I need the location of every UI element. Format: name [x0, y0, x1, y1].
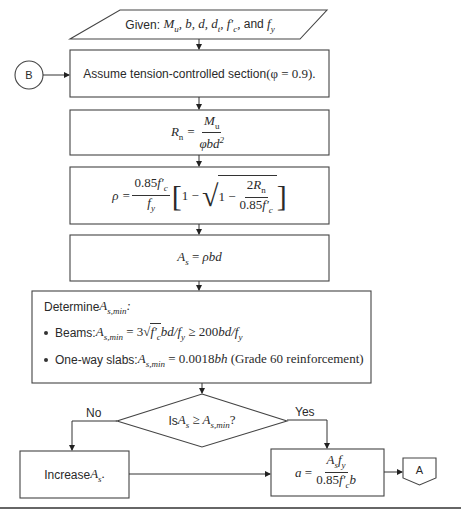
bullet-dot — [44, 331, 48, 335]
determine-bullet-beams: Beams: As,min = 3√f′cbd/fy ≥ 200bd/fy — [42, 322, 242, 344]
determine-title: Determine As,min: — [44, 296, 131, 318]
a-lhs: a = — [295, 465, 312, 481]
a-formula: a = Asfy0.85f′cb — [271, 449, 384, 496]
given-label: Given: Mu, b, d, dt, f′c, and fy — [95, 12, 305, 38]
rho-fraction: 0.85f′cfy — [132, 176, 169, 214]
bullet-slabs-math: As,min = 0.0018bh (Grade 60 reinforcemen… — [138, 351, 364, 369]
bullet-beams-label: Beams: — [55, 326, 96, 340]
decision-math: As ≥ As,min? — [178, 412, 236, 430]
given-vars: Mu, b, d, dt, f′c, and fy — [163, 16, 274, 34]
connector-b-label: B — [15, 61, 43, 89]
rn-fraction: Muφbd2 — [197, 114, 226, 152]
decision-prefix: Is — [168, 414, 177, 428]
as-formula: As = ρbd — [70, 235, 329, 281]
bullet-dot — [44, 358, 48, 362]
determine-bullet-slabs: One-way slabs: As,min = 0.0018bh (Grade … — [42, 349, 364, 371]
rn-formula: Rn = Muφbd2 — [70, 110, 329, 155]
a-fraction: Asfy0.85f′cb — [314, 453, 358, 491]
rho-lhs: ρ = — [112, 188, 130, 204]
connector-a-label: A — [403, 460, 436, 480]
rn-lhs: Rn = — [171, 124, 195, 142]
bullet-beams-math: As,min = 3√f′cbd/fy ≥ 200bd/fy — [96, 324, 243, 342]
as-text: As = ρbd — [177, 249, 222, 267]
determine-title-math: As,min: — [99, 298, 131, 316]
edge-label-no: No — [86, 406, 101, 420]
increase-label: Increase As. — [20, 451, 129, 498]
edge-yes — [287, 420, 327, 448]
determine-title-text: Determine — [44, 300, 99, 314]
decision-label: Is As ≥ As,min? — [140, 410, 264, 432]
increase-text: Increase — [44, 468, 90, 482]
rho-formula: ρ = 0.85f′cfy [1 − √1 −2Rn0.85f′c] — [70, 167, 329, 224]
assume-math: (φ = 0.9). — [266, 66, 316, 82]
edge-no — [72, 421, 117, 450]
increase-math: As. — [90, 466, 105, 484]
bullet-slabs-label: One-way slabs: — [55, 353, 138, 367]
assume-label: Assume tension-controlled section (φ = 0… — [70, 50, 329, 97]
assume-text: Assume tension-controlled section — [83, 67, 266, 81]
edge-label-yes: Yes — [295, 405, 315, 419]
given-prefix: Given: — [125, 18, 160, 32]
